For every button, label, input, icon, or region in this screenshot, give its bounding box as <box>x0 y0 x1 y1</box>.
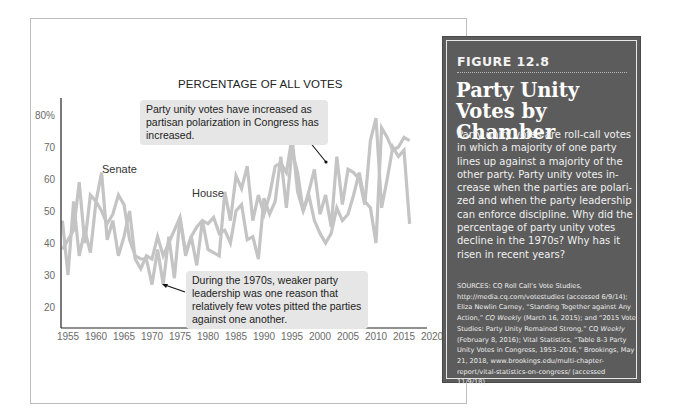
senate-label: Senate <box>102 163 137 175</box>
y-tick-label: 50 <box>44 206 56 217</box>
x-tick-label: 1990 <box>253 331 276 342</box>
figure-sources: SOURCES: CQ Roll Call’s Vote Studies, ht… <box>457 281 637 388</box>
sources-text-3: (February 8, 2016); Vital Statistics, “T… <box>457 336 634 387</box>
y-tick-label: 80% <box>35 110 55 121</box>
sources-journal: CQ Weekly <box>485 314 521 322</box>
x-tick-label: 1975 <box>169 331 192 342</box>
x-tick-label: 2020 <box>421 331 444 342</box>
x-tick-label: 2000 <box>309 331 332 342</box>
annotation-polarization: Party unity votes have increased as part… <box>140 100 328 145</box>
y-axis-ticks: 80%706050403020 <box>35 110 55 313</box>
figure-caption-panel: FIGURE 12.8 Party Unity Votes by Chamber… <box>442 36 641 383</box>
y-tick-label: 30 <box>44 270 56 281</box>
x-tick-label: 1980 <box>197 331 220 342</box>
y-tick-label: 20 <box>44 302 56 313</box>
x-tick-label: 2010 <box>365 331 388 342</box>
y-tick-label: 60 <box>44 174 56 185</box>
sources-journal-2: Weekly <box>601 325 625 333</box>
house-label: House <box>192 187 224 199</box>
x-tick-label: 1985 <box>225 331 248 342</box>
figure-description: Party unity votes are roll-call votes in… <box>457 128 633 261</box>
x-tick-label: 1965 <box>113 331 136 342</box>
annotation-top-arrow-head <box>324 160 327 163</box>
house-line <box>62 128 409 285</box>
annotation-1970s: During the 1970s, weaker party leadershi… <box>186 271 368 329</box>
x-tick-label: 1970 <box>141 331 164 342</box>
figure-number: FIGURE 12.8 <box>457 54 549 69</box>
annotation-bottom-arrow <box>165 285 185 292</box>
x-tick-label: 1955 <box>57 331 80 342</box>
x-tick-label: 1995 <box>281 331 304 342</box>
y-tick-label: 70 <box>44 142 56 153</box>
dotted-divider <box>457 72 627 73</box>
x-tick-label: 2005 <box>337 331 360 342</box>
x-tick-label: 1960 <box>85 331 108 342</box>
x-tick-label: 2015 <box>393 331 416 342</box>
x-axis-ticks: 1955196019651970197519801985199019952000… <box>57 331 444 342</box>
y-tick-label: 40 <box>44 238 56 249</box>
